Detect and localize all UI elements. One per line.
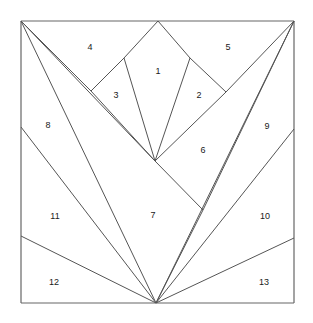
region-label-6: 6 bbox=[200, 145, 205, 155]
region-label-1: 1 bbox=[155, 66, 160, 76]
edge-crown-right-to-notch-right bbox=[190, 58, 226, 92]
edge-topleft-to-bottom-apex bbox=[21, 21, 156, 303]
region-label-7: 7 bbox=[150, 210, 155, 220]
edge-crown-left-to-vcenter bbox=[124, 58, 155, 161]
edge-left-lower-to-bottom-apex bbox=[21, 236, 156, 303]
edge-top-apex-to-crown-left bbox=[124, 21, 158, 58]
region-label-8: 8 bbox=[45, 120, 50, 130]
region-label-9: 9 bbox=[264, 121, 269, 131]
edge-vcenter-to-right-spur bbox=[155, 161, 203, 210]
region-label-11: 11 bbox=[50, 211, 59, 221]
edge-notch-right-to-vcenter bbox=[155, 92, 226, 161]
region-label-13: 13 bbox=[259, 277, 269, 287]
edge-top-apex-to-crown-right bbox=[158, 21, 190, 58]
edge-right-spur-to-bottom-apex bbox=[156, 210, 203, 303]
region-label-2: 2 bbox=[196, 90, 201, 100]
region-label-4: 4 bbox=[87, 42, 92, 52]
edge-left-mid-to-bottom-apex bbox=[21, 127, 156, 303]
edge-right-mid-to-bottom-apex bbox=[156, 129, 294, 303]
edge-topright-to-notch-right bbox=[226, 21, 294, 92]
edge-layer bbox=[21, 21, 294, 303]
region-label-12: 12 bbox=[49, 277, 59, 287]
region-label-5: 5 bbox=[225, 42, 230, 52]
region-label-10: 10 bbox=[260, 211, 270, 221]
region-label-3: 3 bbox=[113, 90, 118, 100]
edge-topright-to-bottom-apex bbox=[156, 21, 294, 303]
polygon-partition-svg: 12345678910111213 bbox=[0, 0, 313, 323]
diagram-canvas: 12345678910111213 bbox=[0, 0, 313, 323]
edge-right-lower-to-bottom-apex bbox=[156, 238, 294, 303]
edge-crown-left-to-notch-left bbox=[91, 58, 124, 91]
